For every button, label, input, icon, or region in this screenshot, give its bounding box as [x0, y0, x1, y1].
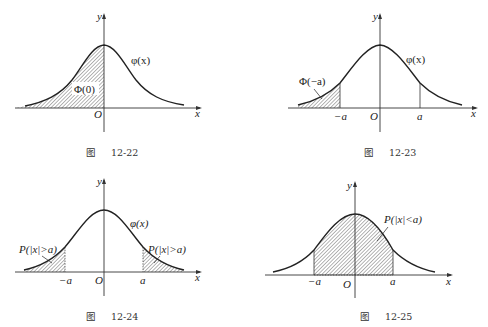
right-shaded-label: P(|x|>a)	[147, 243, 186, 256]
figure-12-23: y x O −a a φ(x) Φ(−a) 图 12-23	[288, 10, 478, 158]
shaded-area-center	[314, 214, 393, 275]
origin-label: O	[94, 108, 102, 120]
tick-pos-a: a	[417, 110, 423, 122]
shaded-label: Φ(0)	[74, 83, 95, 96]
curve-label: φ(x)	[131, 54, 151, 67]
tick-neg-a: −a	[334, 110, 347, 122]
caption-number: 12-22	[111, 147, 138, 158]
caption-prefix: 图	[364, 147, 374, 158]
y-axis-label: y	[96, 10, 102, 22]
figure-caption: 图 12-22	[86, 147, 138, 158]
x-axis-label: x	[194, 107, 200, 119]
origin-label: O	[95, 274, 103, 286]
caption-number: 12-23	[389, 147, 416, 158]
figure-caption: 图 12-23	[364, 147, 416, 158]
x-axis-label: x	[445, 275, 451, 287]
tick-neg-a: −a	[59, 274, 72, 286]
figure-caption: 图 12-24	[86, 311, 138, 322]
curve-label: φ(x)	[130, 217, 149, 230]
y-axis-label: y	[96, 175, 102, 187]
caption-prefix: 图	[86, 311, 96, 322]
shaded-label: Φ(−a)	[299, 75, 326, 88]
x-axis-label: x	[194, 271, 200, 283]
y-axis-label: y	[346, 179, 352, 191]
tick-pos-a: a	[390, 275, 396, 287]
origin-label: O	[370, 110, 378, 122]
caption-number: 12-25	[385, 311, 412, 322]
tick-neg-a: −a	[308, 275, 321, 287]
shaded-label: P(|x|<a)	[383, 213, 422, 226]
x-axis-label: x	[470, 107, 476, 119]
caption-prefix: 图	[360, 311, 370, 322]
label-leader-line	[314, 89, 322, 99]
caption-prefix: 图	[86, 147, 96, 158]
y-axis-arrow-icon	[102, 13, 106, 19]
origin-label: O	[343, 278, 351, 290]
normal-distribution-figures: y x O φ(x) Φ(0) 图 12-22 y x O −a a φ(x) …	[0, 0, 488, 327]
left-shaded-label: P(|x|>a)	[18, 243, 57, 256]
density-curve	[25, 45, 184, 106]
y-axis-arrow-icon	[102, 178, 106, 184]
figure-12-25: y x O −a a P(|x|<a) 图 12-25	[265, 179, 453, 322]
y-axis-arrow-icon	[353, 181, 357, 187]
curve-label: φ(x)	[406, 53, 426, 66]
caption-number: 12-24	[111, 311, 138, 322]
y-axis-arrow-icon	[378, 13, 382, 19]
figure-12-24: y x O −a a φ(x) P(|x|>a) P(|x|>a) 图 12-2…	[15, 175, 202, 322]
figure-12-22: y x O φ(x) Φ(0) 图 12-22	[15, 10, 202, 158]
figure-caption: 图 12-25	[360, 311, 412, 322]
y-axis-label: y	[372, 10, 378, 22]
tick-pos-a: a	[140, 274, 146, 286]
